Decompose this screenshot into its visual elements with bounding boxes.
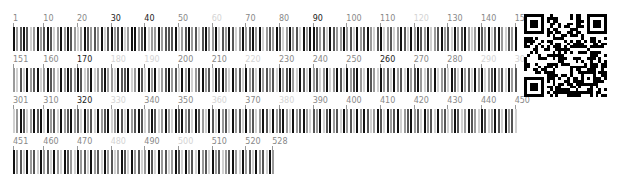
- residue-bar: [484, 27, 486, 51]
- residue-bar: [400, 109, 402, 133]
- residue-bar: [74, 150, 76, 174]
- residue-bar: [80, 68, 82, 92]
- residue-bar: [353, 27, 355, 51]
- residue-bar: [16, 27, 18, 51]
- position-label: 10: [43, 14, 53, 24]
- residue-bar: [255, 27, 257, 51]
- residue-bar: [282, 109, 284, 133]
- residue-bar: [138, 68, 140, 92]
- residue-bar: [134, 109, 136, 133]
- position-label: 440: [481, 96, 496, 106]
- residue-bar: [154, 109, 156, 133]
- residue-bar: [111, 109, 113, 133]
- residue-bar: [107, 150, 109, 174]
- residue-bar: [90, 109, 92, 133]
- residue-bar: [289, 68, 291, 92]
- residue-bar: [515, 68, 517, 92]
- residue-bar: [434, 109, 436, 133]
- residue-bar: [454, 109, 456, 133]
- residue-bar: [481, 109, 483, 133]
- position-label: 520: [245, 137, 260, 147]
- residue-bar: [343, 109, 345, 133]
- residue-bar: [181, 150, 183, 174]
- residue-bar: [400, 68, 402, 92]
- residue-bar: [188, 27, 190, 51]
- residue-bar: [114, 68, 116, 92]
- residue-bar: [377, 109, 379, 133]
- residue-bar: [151, 150, 153, 174]
- residue-bar: [336, 109, 338, 133]
- residue-bar: [471, 27, 473, 51]
- residue-bar: [70, 68, 72, 92]
- residue-bar: [117, 150, 119, 174]
- residue-bar: [269, 27, 271, 51]
- position-label: 360: [212, 96, 227, 106]
- position-label: 460: [43, 137, 58, 147]
- residue-bar: [444, 109, 446, 133]
- residue-bar: [272, 68, 274, 92]
- residue-bar: [252, 109, 254, 133]
- residue-bar: [356, 68, 358, 92]
- residue-bar: [144, 27, 146, 51]
- position-label: 70: [245, 14, 255, 24]
- residue-bar: [505, 68, 507, 92]
- residue-bar: [276, 109, 278, 133]
- residue-bar: [208, 27, 210, 51]
- residue-bar: [340, 109, 342, 133]
- residue-bar: [259, 68, 261, 92]
- position-label: 130: [447, 14, 462, 24]
- residue-bar: [319, 27, 321, 51]
- residue-bar: [249, 27, 251, 51]
- residue-bar: [515, 27, 517, 51]
- residue-bar: [468, 109, 470, 133]
- residue-bar: [286, 109, 288, 133]
- residue-bar: [276, 68, 278, 92]
- sequence-row: 1511601701801902002102202302402502602702…: [13, 55, 523, 95]
- residue-bar: [367, 109, 369, 133]
- position-label: 50: [178, 14, 188, 24]
- residue-bar: [414, 109, 416, 133]
- residue-bar: [134, 27, 136, 51]
- residue-bar: [151, 109, 153, 133]
- residue-bar: [60, 109, 62, 133]
- residue-bar: [326, 109, 328, 133]
- residue-bar: [262, 109, 264, 133]
- residue-bar: [360, 68, 362, 92]
- residue-bar: [117, 68, 119, 92]
- residue-bar: [313, 68, 315, 92]
- residue-bar: [245, 68, 247, 92]
- residue-bar: [494, 27, 496, 51]
- residue-bar: [484, 68, 486, 92]
- residue-bar: [87, 68, 89, 92]
- residue-bar: [451, 109, 453, 133]
- residue-bar: [205, 109, 207, 133]
- position-label: 510: [212, 137, 227, 147]
- residue-bar: [407, 68, 409, 92]
- residue-bar: [323, 27, 325, 51]
- residue-bar: [47, 150, 49, 174]
- position-label: 170: [77, 55, 92, 65]
- residue-bar: [232, 150, 234, 174]
- residue-bar: [373, 27, 375, 51]
- residue-bars: [13, 109, 523, 133]
- residue-bar: [131, 68, 133, 92]
- residue-bar: [245, 109, 247, 133]
- residue-bar: [259, 27, 261, 51]
- residue-bar: [50, 150, 52, 174]
- residue-bar: [33, 27, 35, 51]
- residue-bar: [511, 27, 513, 51]
- residue-bar: [447, 27, 449, 51]
- residue-bar: [249, 150, 251, 174]
- position-label: 230: [279, 55, 294, 65]
- residue-bar: [437, 27, 439, 51]
- residue-bar: [245, 27, 247, 51]
- residue-bar: [205, 27, 207, 51]
- residue-bar: [242, 68, 244, 92]
- residue-bar: [417, 68, 419, 92]
- residue-bar: [212, 150, 214, 174]
- residue-bar: [232, 109, 234, 133]
- residue-bar: [329, 27, 331, 51]
- residue-bar: [77, 150, 79, 174]
- residue-bar: [326, 68, 328, 92]
- residue-bar: [367, 27, 369, 51]
